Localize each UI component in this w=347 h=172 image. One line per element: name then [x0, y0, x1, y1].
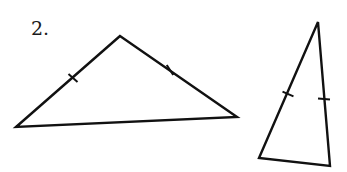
acute-isosceles-triangle: [259, 22, 330, 166]
triangles-figure: [0, 0, 347, 172]
triangle-2: [259, 22, 330, 166]
triangle-1: [16, 36, 237, 127]
diagram-canvas: 2.: [0, 0, 347, 172]
congruence-tick-mark: [318, 98, 330, 99]
obtuse-isosceles-triangle: [16, 36, 237, 127]
